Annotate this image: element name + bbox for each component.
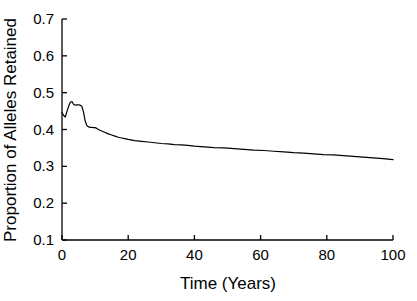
x-axis-title: Time (Years)	[180, 274, 276, 293]
y-tick-label: 0.4	[33, 121, 54, 138]
y-tick-label: 0.6	[33, 47, 54, 64]
y-axis-title: Proportion of Alleles Retained	[1, 18, 20, 242]
x-tick-label: 80	[318, 246, 335, 263]
y-tick-label: 0.7	[33, 10, 54, 27]
y-tick-label: 0.1	[33, 231, 54, 248]
y-tick-label: 0.2	[33, 194, 54, 211]
y-tick-label: 0.3	[33, 157, 54, 174]
x-tick-label: 100	[380, 246, 405, 263]
x-tick-label: 60	[252, 246, 269, 263]
chart-figure: 0.10.20.30.40.50.60.7 020406080100 Time …	[0, 0, 417, 301]
x-tick-label: 40	[186, 246, 203, 263]
x-tick-label: 0	[58, 246, 66, 263]
y-tick-label: 0.5	[33, 84, 54, 101]
line-chart: 0.10.20.30.40.50.60.7 020406080100 Time …	[0, 0, 417, 301]
x-tick-label: 20	[120, 246, 137, 263]
